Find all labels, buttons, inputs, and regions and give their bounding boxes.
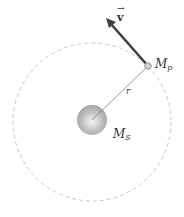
radius-label: r — [126, 87, 130, 96]
vector-arrow-icon: → — [117, 3, 125, 13]
velocity-label: → v — [117, 11, 123, 24]
sun-mass-label: MS — [113, 128, 131, 142]
velocity-arrow-shaft — [111, 24, 148, 66]
orbit-diagram — [0, 0, 184, 217]
radius-line — [92, 66, 148, 120]
planet-icon — [145, 63, 152, 70]
planet-mass-label: Mp — [155, 58, 172, 72]
